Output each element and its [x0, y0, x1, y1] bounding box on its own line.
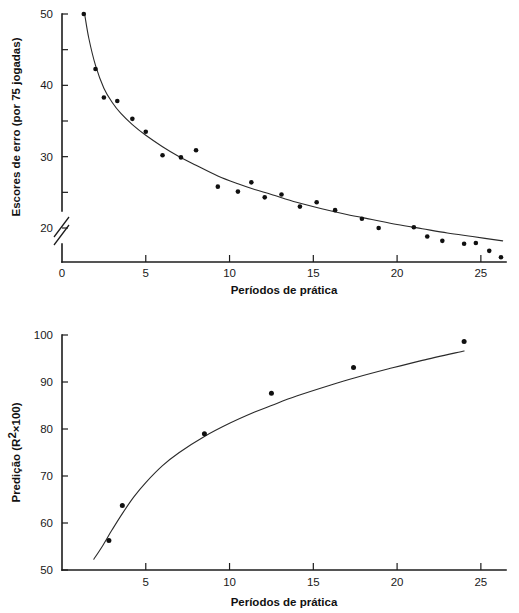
- data-point: [236, 189, 241, 194]
- y-tick-label: 90: [40, 376, 53, 388]
- chart-error-scores: 203040500510152025Períodos de práticaEsc…: [0, 0, 519, 310]
- x-tick-label: 15: [307, 267, 320, 279]
- y-tick-label: 50: [40, 564, 53, 576]
- data-point: [194, 148, 199, 153]
- y-axis-title: Escores de erro (por 75 jogadas): [10, 37, 22, 216]
- data-point: [102, 95, 107, 100]
- data-point: [351, 365, 356, 370]
- data-point: [262, 195, 267, 200]
- x-tick-label: 25: [474, 576, 487, 588]
- data-point: [425, 234, 430, 239]
- data-point: [179, 155, 184, 160]
- data-point: [462, 339, 467, 344]
- x-tick-label: 5: [143, 576, 149, 588]
- x-tick-label: 20: [391, 576, 404, 588]
- prediction-r2-plot: 5060708090100510152025Períodos de prátic…: [0, 310, 519, 613]
- data-point: [106, 538, 111, 543]
- x-axis-title: Períodos de prática: [231, 596, 338, 608]
- chart-prediction-r2: 5060708090100510152025Períodos de prátic…: [0, 310, 519, 613]
- data-point: [130, 117, 135, 122]
- y-tick-label: 80: [40, 423, 53, 435]
- x-tick-label: 10: [223, 576, 236, 588]
- data-point: [93, 67, 98, 72]
- data-point: [487, 249, 492, 254]
- y-tick-label: 30: [40, 151, 53, 163]
- x-tick-label: 25: [474, 267, 487, 279]
- data-point: [202, 431, 207, 436]
- data-point: [376, 226, 381, 231]
- data-point: [298, 204, 303, 209]
- data-point: [462, 241, 467, 246]
- x-tick-label: 20: [391, 267, 404, 279]
- data-point: [360, 216, 365, 221]
- y-tick-label: 20: [40, 222, 53, 234]
- x-tick-label: 5: [143, 267, 149, 279]
- x-tick-label: 10: [223, 267, 236, 279]
- data-point: [120, 503, 125, 508]
- data-point: [160, 153, 165, 158]
- y-tick-label: 70: [40, 470, 53, 482]
- x-tick-label: 15: [307, 576, 320, 588]
- y-tick-label: 50: [40, 8, 53, 20]
- x-tick-label: 0: [59, 267, 65, 279]
- data-point: [269, 391, 274, 396]
- data-point: [143, 129, 148, 134]
- data-point: [314, 200, 319, 205]
- data-point: [249, 180, 254, 185]
- data-point: [115, 99, 120, 104]
- y-axis-title: Predição (R2×100): [6, 402, 22, 502]
- y-tick-label: 40: [40, 79, 53, 91]
- data-point: [81, 12, 86, 17]
- y-tick-label: 100: [34, 329, 53, 341]
- error-scores-plot: 203040500510152025Períodos de práticaEsc…: [0, 0, 519, 310]
- data-point: [216, 184, 221, 189]
- data-point: [279, 192, 284, 197]
- x-axis-title: Períodos de prática: [231, 284, 338, 296]
- fit-curve: [85, 14, 503, 241]
- data-point: [474, 241, 479, 246]
- data-point: [412, 225, 417, 230]
- y-tick-label: 60: [40, 517, 53, 529]
- data-point: [499, 255, 504, 260]
- data-point: [440, 239, 445, 244]
- fit-curve: [94, 351, 464, 559]
- data-point: [333, 208, 338, 213]
